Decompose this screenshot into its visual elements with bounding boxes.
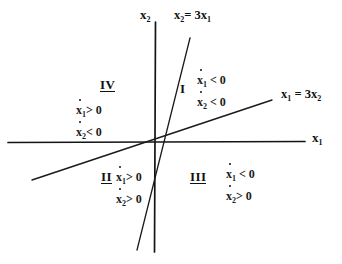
region-4-numeral: IV [100,78,115,92]
diagram-canvas [0,0,342,264]
region-2-condition-x2: x2> 0 [116,189,142,211]
x2-axis-label: x2 [140,8,151,24]
region-1-conditions: x1 < 0 x2 < 0 [197,70,226,113]
x2-axis-line [155,22,156,252]
region-3-numeral: III [190,170,206,184]
region-4-condition-x1: x1> 0 [76,100,102,122]
region-1-condition-x1: x1 < 0 [197,70,226,92]
steep-switching-line [137,38,190,250]
x1-axis-label: x1 [312,131,323,147]
phase-plane-figure: x2 x1 x2= 3x1 x1 = 3x2 I x1 < 0 x2 < 0 I… [0,0,342,264]
region-1-numeral: I [180,82,185,95]
region-3-condition-x1: x1 < 0 [226,164,255,186]
region-4-condition-x2: x2< 0 [76,122,102,144]
region-4-conditions: x1> 0 x2< 0 [76,100,102,143]
region-3-condition-x2: x2> 0 [226,186,255,208]
region-1-condition-x2: x2 < 0 [197,92,226,114]
region-2-condition-x1: x1> 0 [116,167,142,189]
region-2-numeral: II [101,170,112,184]
region-2-conditions: x1> 0 x2> 0 [116,167,142,210]
shallow-line-equation-label: x1 = 3x2 [281,88,321,103]
x1-axis-line [8,142,305,143]
steep-line-equation-label: x2= 3x1 [174,9,211,24]
region-3-conditions: x1 < 0 x2> 0 [226,164,255,207]
